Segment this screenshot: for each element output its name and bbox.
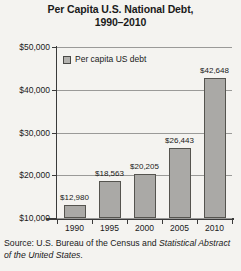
legend-swatch-icon — [63, 56, 71, 64]
bar-chart: Per Capita U.S. National Debt, 1990–2010… — [0, 0, 241, 271]
y-axis-labels: $50,000$40,000$30,000$20,000$10,000 — [0, 0, 50, 271]
bar — [99, 181, 121, 218]
gridline — [57, 218, 232, 219]
plot-area: $12,980$18,563$20,205$26,443$42,648 — [57, 47, 232, 218]
bar-value-label: $26,443 — [158, 137, 202, 145]
bar — [204, 78, 226, 218]
y-axis-label: $40,000 — [2, 86, 50, 95]
y-axis-label: $50,000 — [2, 43, 50, 52]
bar — [134, 174, 156, 218]
source-note: Source: U.S. Bureau of the Census and St… — [4, 238, 237, 261]
x-axis-label: 1990 — [55, 224, 95, 233]
x-axis-label: 2010 — [195, 224, 235, 233]
bar-value-label: $20,205 — [123, 163, 167, 171]
gridline — [57, 47, 232, 48]
x-axis-tick — [92, 219, 93, 224]
x-axis-tick — [197, 219, 198, 224]
y-axis-label: $20,000 — [2, 171, 50, 180]
x-axis-tick — [127, 219, 128, 224]
y-axis-tick — [52, 133, 57, 134]
x-axis-tick — [57, 219, 58, 224]
bar-value-label: $18,563 — [88, 170, 132, 178]
x-axis-label: 1995 — [90, 224, 130, 233]
source-prefix: Source: U.S. Bureau of the Census and — [4, 238, 159, 248]
chart-title-line1: Per Capita U.S. National Debt, — [48, 3, 194, 15]
x-axis-tick — [162, 219, 163, 224]
legend-label: Per capita US debt — [75, 55, 146, 64]
chart-legend: Per capita US debt — [63, 55, 146, 64]
y-axis-tick — [52, 90, 57, 91]
bar — [169, 148, 191, 218]
source-suffix: . — [80, 250, 82, 260]
y-axis-label: $10,000 — [2, 214, 50, 223]
bar-value-label: $12,980 — [53, 194, 97, 202]
y-axis-tick — [52, 175, 57, 176]
bar — [64, 205, 86, 218]
bar-value-label: $42,648 — [193, 67, 237, 75]
y-axis-label: $30,000 — [2, 129, 50, 138]
x-axis-label: 2005 — [160, 224, 200, 233]
x-axis-tick — [232, 219, 233, 224]
y-axis-tick — [52, 47, 57, 48]
x-axis-label: 2000 — [125, 224, 165, 233]
